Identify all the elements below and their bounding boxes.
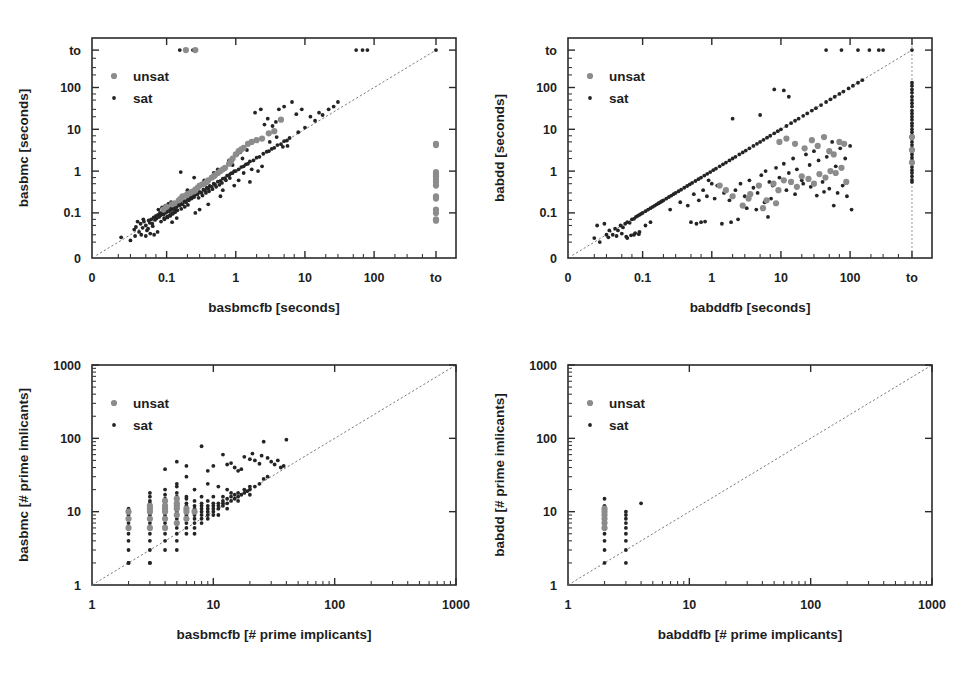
data-point-sat [910,124,914,128]
data-point-sat [856,48,860,52]
data-point-sat [159,220,163,224]
y-tick-label: 1 [550,165,557,179]
legend-marker-unsat [111,73,117,79]
data-point-sat [910,88,914,92]
data-point-sat [824,48,828,52]
data-point-sat [252,159,256,163]
data-point-sat [200,517,204,521]
data-point-sat [248,160,252,164]
data-point-sat [236,499,240,503]
data-point-sat [148,539,152,543]
data-point-sat [163,532,167,536]
y-axis-title: babdd [# prime imlicants] [492,393,507,557]
data-point-sat [179,170,183,174]
data-point-sat [225,497,229,501]
data-point-sat [769,197,773,201]
y-tick-label: 0.1 [540,206,557,220]
data-point-sat [774,166,778,170]
data-point-sat [772,131,776,135]
legend-marker-sat [588,96,592,100]
data-point-sat [193,521,197,525]
data-point-sat [248,485,252,489]
y-axis-title: basbmc [# prime imlicants] [16,388,31,562]
data-point-sat [881,48,885,52]
data-point-sat [850,208,854,212]
data-point-sat [793,192,797,196]
legend-label-unsat: unsat [609,69,646,84]
data-point-sat [200,501,204,505]
data-point-sat [206,469,210,473]
data-point-sat [624,521,628,525]
data-point-sat [603,539,607,543]
data-point-unsat [776,139,782,145]
data-point-sat [845,194,849,198]
data-point-sat [837,92,841,96]
data-point-sat [678,200,682,204]
data-point-unsat [162,498,168,504]
data-point-unsat [805,176,811,182]
legend-marker-unsat [587,73,593,79]
data-point-sat [151,224,155,228]
plot-top-right: 00.1110100to00.1110100tounsatsatbabddfb … [480,10,950,330]
x-tick-label: 10 [298,271,312,285]
data-point-unsat [601,506,607,512]
data-point-sat [214,185,218,189]
data-point-sat [910,118,914,122]
data-point-sat [266,117,270,121]
data-point-sat [838,146,842,150]
data-point-sat [801,114,805,118]
data-point-sat [268,140,272,144]
data-point-unsat [909,147,915,153]
data-point-sat [282,464,286,468]
data-point-sat [248,493,252,497]
x-tick-label: 100 [364,271,385,285]
data-point-sat [144,234,148,238]
data-point-sat [731,117,735,121]
data-point-sat [193,517,197,521]
data-point-sat [759,173,763,177]
data-point-sat [910,105,914,109]
data-point-unsat [125,509,131,515]
data-point-sat [808,163,812,167]
legend-label-sat: sat [133,91,153,106]
data-point-unsat [601,525,607,531]
data-point-sat [201,194,205,198]
y-tick-label: 1 [74,165,81,179]
data-point-sat [764,169,768,173]
x-axis-title: basbmcfb [# prime implicants] [176,627,371,642]
data-point-sat [146,227,150,231]
legend: unsatsat [111,396,170,433]
y-tick-label: 1 [550,579,557,593]
data-point-sat [200,495,204,499]
data-point-sat [754,208,758,212]
data-point-sat [134,225,138,229]
data-point-unsat [211,173,217,179]
y-tick-label: 0.1 [64,206,81,220]
data-points-group [601,497,643,565]
data-point-sat [787,171,791,175]
data-point-sat [200,444,204,448]
data-point-sat [633,231,637,235]
data-point-unsat [254,137,260,143]
data-point-sat [239,467,243,471]
data-point-sat [620,232,624,236]
data-point-sat [281,145,285,149]
data-point-sat [701,188,705,192]
data-point-unsat [763,197,769,203]
x-axis-title: basbmcfb [seconds] [208,300,339,315]
data-point-unsat [183,192,189,198]
data-point-sat [782,162,786,166]
data-point-sat [624,235,628,239]
y-tick-label: 100 [60,81,81,95]
data-point-sat [193,499,197,503]
data-point-sat [815,194,819,198]
data-point-unsat [174,496,180,502]
data-point-unsat [183,506,189,512]
data-point-sat [197,196,201,200]
data-point-sat [211,495,215,499]
y-tick-label: 1 [74,579,81,593]
data-point-unsat [433,218,439,224]
data-point-unsat [770,181,776,187]
data-point-sat [812,149,816,153]
data-point-sat [262,440,266,444]
